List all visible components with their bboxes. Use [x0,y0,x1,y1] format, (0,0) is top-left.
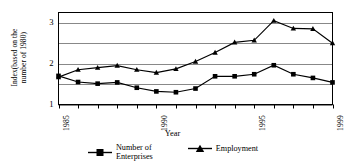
data-point-marker [134,85,139,90]
data-point-marker [330,80,335,85]
x-axis-title: Year [0,129,345,138]
data-point-marker [174,90,179,95]
legend-label-employment: Employment [216,144,258,153]
square-marker-icon [87,147,113,158]
data-point-marker [95,81,100,86]
triangle-marker-icon [187,143,213,154]
data-series-layer [56,18,335,95]
legend-item-employment: Employment [187,143,258,154]
data-point-marker [252,72,257,77]
legend-item-enterprises: Number of Enterprises [87,143,153,161]
gridlines [59,24,333,106]
data-point-marker [213,74,218,79]
legend-label-enterprises-line2: Enterprises [116,152,153,161]
data-point-marker [271,18,276,23]
data-point-marker [76,80,81,85]
data-point-marker [232,74,237,79]
data-point-marker [271,63,276,68]
legend-label-enterprises-line1: Number of [116,143,152,152]
data-point-marker [115,80,120,85]
data-point-marker [311,76,316,81]
data-point-marker [291,72,296,77]
y-axis-tick-label: 1 [42,99,54,109]
data-point-marker [193,86,198,91]
line-chart: Index(based on the number of 1980) 123 1… [0,0,345,168]
data-point-marker [154,89,159,94]
y-axis-tick-label: 3 [42,17,54,27]
y-axis-tick-label: 2 [42,58,54,68]
chart-legend: Number of Enterprises Employment [0,143,345,161]
